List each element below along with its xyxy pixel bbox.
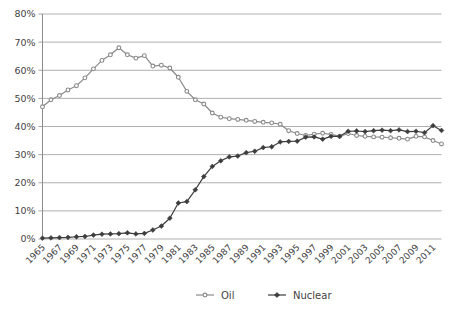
data-point: [397, 136, 401, 140]
data-point: [295, 139, 300, 144]
chart-container: 0%10%20%30%40%50%60%70%80% 1965196719691…: [0, 0, 454, 309]
data-point: [414, 129, 419, 134]
data-point: [355, 134, 359, 138]
data-point: [125, 230, 130, 235]
data-point: [380, 128, 385, 133]
y-tick-label: 40%: [14, 121, 35, 132]
y-tick-label: 30%: [14, 149, 35, 160]
data-point: [134, 56, 138, 60]
y-axis: [39, 14, 43, 239]
data-point: [440, 142, 444, 146]
data-point: [286, 139, 291, 144]
data-point: [405, 129, 410, 134]
data-point: [83, 234, 88, 239]
data-point: [159, 63, 163, 67]
data-point: [295, 132, 299, 136]
data-point: [109, 53, 113, 57]
data-point: [49, 235, 54, 240]
data-point: [133, 232, 138, 237]
data-point: [49, 98, 53, 102]
data-point: [150, 228, 155, 233]
x-tick-label: 2011: [414, 242, 437, 265]
data-point: [431, 139, 435, 143]
series-nuclear: [40, 123, 444, 240]
data-point: [278, 140, 283, 145]
y-tick-label: 10%: [14, 205, 35, 216]
data-point: [236, 118, 240, 122]
data-point: [142, 231, 147, 236]
data-point: [117, 231, 122, 236]
data-point: [389, 136, 393, 140]
data-point: [91, 233, 96, 238]
data-point: [151, 64, 155, 68]
data-point: [363, 134, 367, 138]
data-point: [210, 111, 214, 115]
data-point: [219, 115, 223, 119]
data-point: [100, 59, 104, 63]
data-point: [270, 121, 274, 125]
data-point: [320, 137, 325, 142]
data-point: [227, 154, 232, 159]
data-point: [168, 66, 172, 70]
data-point: [125, 53, 129, 57]
data-point: [354, 129, 359, 134]
data-point: [100, 232, 105, 237]
data-point: [117, 46, 121, 50]
y-tick-label: 80%: [14, 8, 35, 19]
data-point: [185, 89, 189, 93]
legend-label: Nuclear: [293, 290, 332, 301]
y-tick-label: 0%: [20, 233, 35, 244]
data-point: [108, 232, 113, 237]
y-tick-label: 20%: [14, 177, 35, 188]
data-point: [261, 145, 266, 150]
data-point: [202, 102, 206, 106]
y-tick-label: 60%: [14, 65, 35, 76]
data-point: [92, 67, 96, 71]
data-point: [261, 120, 265, 124]
data-point: [74, 234, 79, 239]
legend-marker: [203, 293, 207, 297]
data-point: [193, 98, 197, 102]
data-point: [363, 129, 368, 134]
data-point: [66, 88, 70, 92]
series-line: [43, 126, 442, 239]
x-tick-labels: 1965196719691971197319751977197919811983…: [24, 242, 438, 265]
data-point: [406, 137, 410, 141]
legend-item-nuclear[interactable]: Nuclear: [268, 290, 332, 301]
data-point: [253, 120, 257, 124]
y-tick-labels: 0%10%20%30%40%50%60%70%80%: [14, 8, 35, 244]
data-point: [278, 122, 282, 126]
data-point: [287, 129, 291, 133]
data-point: [83, 76, 87, 80]
data-point: [227, 117, 231, 121]
line-chart: 0%10%20%30%40%50%60%70%80% 1965196719691…: [0, 0, 454, 309]
data-point: [41, 105, 45, 109]
data-point: [244, 118, 248, 122]
y-tick-label: 50%: [14, 93, 35, 104]
data-point: [142, 54, 146, 58]
data-point: [397, 127, 402, 132]
legend-marker: [274, 292, 279, 297]
data-point: [388, 128, 393, 133]
data-point: [380, 135, 384, 139]
data-point: [252, 149, 257, 154]
data-point: [439, 128, 444, 133]
data-point: [176, 201, 181, 206]
data-point: [176, 75, 180, 79]
legend-item-oil[interactable]: Oil: [196, 290, 234, 301]
data-point: [75, 84, 79, 88]
data-point: [321, 131, 325, 135]
data-point: [371, 128, 376, 133]
data-point: [414, 134, 418, 138]
data-point: [269, 144, 274, 149]
data-point: [40, 236, 45, 241]
data-point: [58, 94, 62, 98]
chart-legend: OilNuclear: [196, 290, 332, 301]
y-tick-label: 70%: [14, 37, 35, 48]
series-lines: [40, 46, 444, 241]
gridlines-group: [43, 14, 442, 239]
legend-label: Oil: [221, 290, 234, 301]
data-point: [423, 135, 427, 139]
data-point: [372, 135, 376, 139]
